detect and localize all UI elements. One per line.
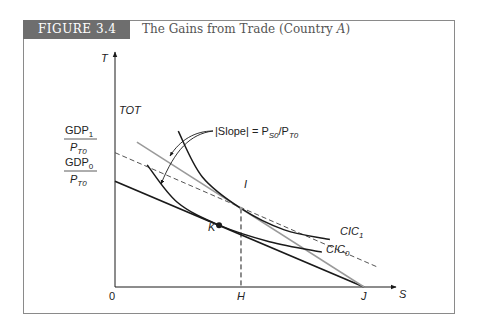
point-I-label: I: [244, 178, 247, 190]
y-tick-gdp0-den-sub: T0: [77, 179, 87, 188]
slope-annotation-sub2: T0: [289, 131, 299, 140]
y-tick-gdp1-num-text: GDP: [65, 124, 89, 136]
slope-annotation: |Slope| = PS0/PT0: [215, 125, 299, 140]
slope-pointer-to-gdp1: [170, 131, 213, 156]
y-tick-gdp0-den: PT0: [70, 173, 87, 188]
series-cic1: [178, 131, 330, 239]
plot-area: [115, 52, 396, 287]
point-I-marker: [239, 207, 242, 210]
slope-annotation-sub1: S0: [269, 131, 279, 140]
chart-svg: T S 0 H J GDP1 PT0 GDP0 PT0 TOT |Slope| …: [0, 0, 477, 331]
slope-annotation-text: |Slope| = P: [215, 125, 269, 137]
cic1-label: CIC1: [340, 225, 363, 240]
cic1-label-text: CIC: [340, 225, 359, 237]
tot-label: TOT: [119, 104, 142, 116]
series-cic0: [147, 165, 322, 252]
cic1-label-sub: 1: [359, 231, 363, 240]
y-tick-gdp1-num-sub: 1: [89, 130, 94, 139]
point-K-label: K: [208, 221, 216, 233]
point-K-marker: [216, 222, 222, 228]
slope-annotation-mid: /P: [279, 125, 289, 137]
y-tick-gdp0: GDP0 PT0: [64, 156, 97, 188]
cic0-label-sub: 0: [345, 249, 350, 258]
x-tick-J: J: [360, 290, 367, 302]
y-tick-gdp1-den: PT0: [70, 141, 87, 156]
y-tick-gdp0-num-sub: 0: [89, 162, 94, 171]
origin-label: 0: [109, 290, 115, 302]
x-tick-H: H: [237, 290, 245, 302]
x-axis-label: S: [399, 288, 407, 300]
series-gdp0-budget-line: [115, 181, 364, 287]
cic0-label-text: CIC: [326, 243, 345, 255]
y-tick-gdp1: GDP1 PT0: [64, 124, 97, 156]
y-axis-label: T: [101, 52, 109, 64]
y-tick-gdp0-num: GDP0: [65, 156, 94, 171]
cic0-label: CIC0: [326, 243, 350, 258]
y-tick-gdp0-num-text: GDP: [65, 156, 89, 168]
y-tick-gdp1-den-sub: T0: [77, 147, 87, 156]
y-tick-gdp1-num: GDP1: [65, 124, 94, 139]
